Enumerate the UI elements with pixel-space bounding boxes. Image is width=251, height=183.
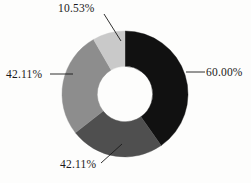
donut-chart-svg [0,0,251,183]
donut-chart: 10.53% 60.00% 42.11% 42.11% [0,0,251,183]
slice-label-right: 60.00% [206,66,243,78]
donut-slices [62,31,188,157]
slice-label-top: 10.53% [58,2,95,14]
slice-label-left: 42.11% [6,68,42,80]
slice-label-bottom: 42.11% [60,158,96,170]
